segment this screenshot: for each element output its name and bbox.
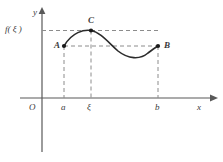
- x-axis-arrow-icon: [210, 95, 218, 102]
- point-b-marker: [156, 44, 160, 48]
- f-xi-value-label: f( ξ ): [5, 25, 22, 34]
- x-axis: [20, 95, 218, 102]
- y-axis: [39, 7, 46, 152]
- y-axis-label: y: [33, 8, 37, 17]
- math-figure: y x O f( ξ ) a ξ b A C B: [0, 0, 223, 162]
- point-c-marker: [89, 28, 93, 32]
- point-label-b: B: [164, 41, 170, 50]
- x-tick-label-xi: ξ: [87, 103, 91, 112]
- x-axis-label: x: [197, 103, 201, 112]
- x-tick-label-b: b: [155, 103, 160, 112]
- y-axis-arrow-icon: [39, 7, 46, 14]
- function-curve: [64, 30, 158, 57]
- point-label-c: C: [88, 16, 94, 25]
- figure-canvas: [0, 0, 223, 162]
- point-a-marker: [62, 44, 66, 48]
- x-tick-label-a: a: [61, 103, 66, 112]
- origin-label: O: [29, 103, 36, 112]
- point-label-a: A: [54, 41, 60, 50]
